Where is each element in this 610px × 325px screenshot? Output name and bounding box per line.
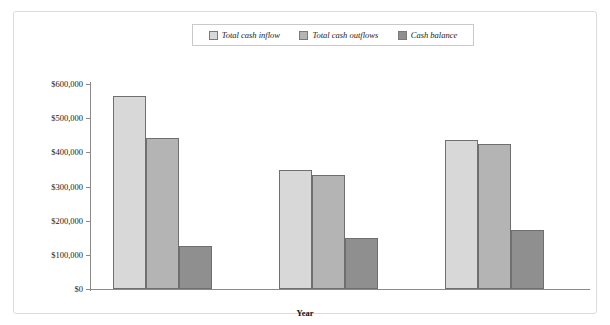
bar — [113, 96, 146, 289]
y-tick-mark — [86, 255, 91, 256]
y-tick-label: $300,000 — [51, 182, 83, 192]
plot-area: $0$100,000$200,000$300,000$400,000$500,0… — [91, 84, 589, 289]
legend-swatch-icon — [398, 31, 407, 40]
chart-frame: Total cash inflowTotal cash outflowsCash… — [13, 11, 597, 314]
bar — [279, 170, 312, 289]
bar — [345, 238, 378, 289]
y-tick-label: $200,000 — [51, 216, 83, 226]
legend-item-label: Total cash inflow — [222, 31, 280, 40]
y-tick-label: $400,000 — [51, 147, 83, 157]
legend-item[interactable]: Cash balance — [398, 31, 458, 40]
y-tick-mark — [86, 289, 91, 290]
legend-swatch-icon — [209, 31, 218, 40]
legend-item-label: Total cash outflows — [312, 31, 378, 40]
bar — [312, 175, 345, 289]
x-axis-title: Year — [14, 308, 596, 318]
bar — [146, 138, 179, 289]
legend-item[interactable]: Total cash inflow — [209, 31, 280, 40]
y-tick-label: $0 — [75, 284, 84, 294]
chart-legend: Total cash inflowTotal cash outflowsCash… — [192, 24, 474, 46]
y-tick-mark — [86, 152, 91, 153]
y-tick-mark — [86, 221, 91, 222]
legend-item-label: Cash balance — [411, 31, 458, 40]
y-tick-mark — [86, 84, 91, 85]
y-tick-label: $100,000 — [51, 250, 83, 260]
legend-swatch-icon — [299, 31, 308, 40]
y-tick-label: $600,000 — [51, 79, 83, 89]
bar — [445, 140, 478, 289]
y-tick-mark — [86, 187, 91, 188]
legend-item[interactable]: Total cash outflows — [299, 31, 378, 40]
x-axis-line — [90, 289, 590, 290]
y-tick-mark — [86, 118, 91, 119]
bar — [179, 246, 212, 289]
bar — [478, 144, 511, 289]
bar — [511, 230, 544, 289]
y-tick-label: $500,000 — [51, 113, 83, 123]
